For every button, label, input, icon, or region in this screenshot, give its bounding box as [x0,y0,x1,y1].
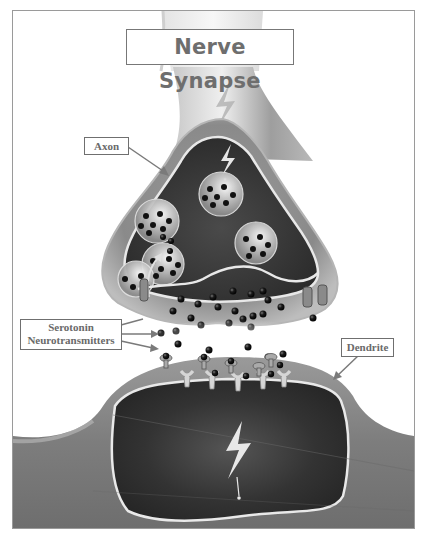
label-serotonin-line1: Serotonin [21,321,121,334]
label-serotonin-line2: Neurotransmitters [21,334,121,347]
label-serotonin-neurotransmitters: Serotonin Neurotransmitters [20,319,122,350]
diagram-frame: Nerve Synapse Axon Serotonin Neurotransm… [12,10,415,529]
diagram-title: Nerve Synapse [126,29,294,65]
label-axon: Axon [84,137,129,155]
label-dendrite: Dendrite [341,338,394,357]
